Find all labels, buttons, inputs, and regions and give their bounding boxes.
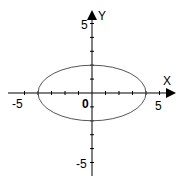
- x-min-label: -5: [12, 97, 23, 111]
- x-max-label: 5: [155, 99, 162, 113]
- y-axis-arrow-icon: [87, 10, 97, 20]
- origin-label: 0: [82, 97, 89, 111]
- y-min-label: -5: [76, 157, 87, 171]
- x-axis-arrow-icon: [166, 88, 176, 98]
- x-axis-label: X: [163, 74, 171, 88]
- ellipse-plot: X Y -5 5 5 -5 0: [0, 0, 182, 188]
- y-axis-label: Y: [98, 9, 106, 23]
- plot-canvas: X Y -5 5 5 -5 0: [0, 0, 182, 188]
- y-max-label: 5: [81, 18, 88, 32]
